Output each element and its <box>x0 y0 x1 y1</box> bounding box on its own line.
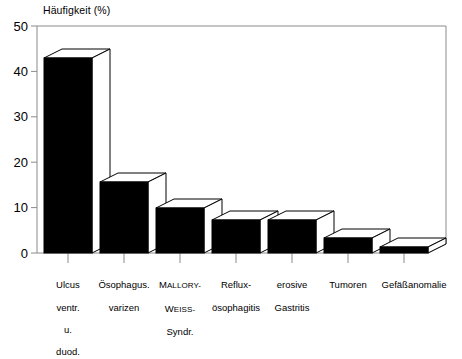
y-tick-30: 30 <box>2 110 28 123</box>
x-label-gefaessanomalie-line1: Gefäßanomalie <box>370 279 458 290</box>
x-label-ulcus-line4: duod. <box>38 346 98 357</box>
y-tick-10: 10 <box>2 201 28 214</box>
x-label-mallory-weiss-line3: Syndr. <box>148 326 212 337</box>
x-label-gefaessanomalie: Gefäßanomalie <box>370 268 458 302</box>
y-tick-0: 0 <box>2 247 28 260</box>
x-axis-ticks <box>68 253 404 263</box>
y-tick-20: 20 <box>2 156 28 169</box>
x-label-erosive-gastritis-line2: Gastritis <box>259 302 325 313</box>
y-tick-50: 50 <box>2 20 28 33</box>
x-label-ulcus-line3: u. <box>38 324 98 335</box>
y-tick-40: 40 <box>2 65 28 78</box>
y-axis-ticks <box>31 26 37 253</box>
